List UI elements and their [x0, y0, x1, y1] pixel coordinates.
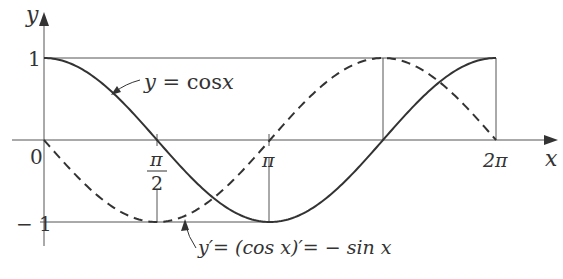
- x-tick-pi-half-den: 2: [151, 172, 163, 194]
- y-axis-label: y: [25, 2, 39, 27]
- x-tick-2pi-label: 2π: [482, 149, 508, 171]
- x-tick-pi-half-num: π: [149, 148, 163, 170]
- x-axis-label: x: [545, 146, 558, 171]
- y-axis-arrow-icon: [39, 12, 49, 26]
- cosine-derivative-plot: y x 0 1 − 1 π 2 π 2π y = cosx y′= (cos x…: [0, 0, 563, 279]
- x-tick-pi-label: π: [261, 149, 275, 171]
- cos-label-x: x: [222, 70, 234, 94]
- origin-label: 0: [30, 145, 43, 169]
- cos-label-arrowhead-icon: [111, 86, 121, 95]
- cos-curve-label: y = cosx: [143, 70, 234, 94]
- x-axis-arrow-icon: [544, 135, 558, 145]
- y-tick-minus1-label: − 1: [16, 212, 52, 236]
- y-tick-1-label: 1: [28, 47, 41, 71]
- deriv-curve-label: y′= (cos x)′= − sin x: [197, 236, 392, 258]
- deriv-label-arrowhead-icon: [181, 219, 189, 231]
- cos-label-eq: = cos: [156, 70, 222, 94]
